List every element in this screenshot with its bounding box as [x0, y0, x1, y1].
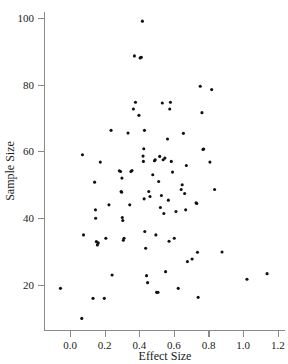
- data-point: [163, 157, 166, 160]
- data-point: [91, 297, 94, 300]
- data-point: [180, 188, 183, 191]
- x-tick-label: 1.0: [236, 339, 250, 351]
- data-point: [121, 219, 124, 222]
- data-point: [162, 212, 165, 215]
- data-point: [157, 180, 160, 183]
- data-point: [81, 153, 84, 156]
- data-point: [202, 148, 205, 151]
- data-point: [154, 233, 157, 236]
- data-point: [173, 237, 176, 240]
- y-tick-label: 60: [23, 145, 35, 157]
- data-point: [200, 111, 203, 114]
- data-point: [182, 132, 185, 135]
- plot-canvas: 20406080100 0.00.20.40.60.81.01.2 Effect…: [0, 0, 288, 364]
- data-point: [174, 210, 177, 213]
- data-point: [130, 169, 133, 172]
- data-point: [141, 20, 144, 23]
- data-point: [210, 88, 213, 91]
- data-point: [93, 181, 96, 184]
- y-axis-ticks: 20406080100: [18, 12, 45, 291]
- data-point: [128, 203, 131, 206]
- data-point: [184, 208, 187, 211]
- data-point: [181, 183, 184, 186]
- data-point: [164, 270, 167, 273]
- data-point: [208, 161, 211, 164]
- data-point: [134, 101, 137, 104]
- data-point: [147, 190, 150, 193]
- data-point: [156, 291, 159, 294]
- data-point: [119, 170, 122, 173]
- data-point: [104, 237, 107, 240]
- data-point: [196, 251, 199, 254]
- data-point: [137, 114, 140, 117]
- data-point: [159, 206, 162, 209]
- data-point: [170, 160, 173, 163]
- data-point: [154, 158, 157, 161]
- data-point: [161, 101, 164, 104]
- data-point: [107, 203, 110, 206]
- data-point: [168, 107, 171, 110]
- data-point: [143, 129, 146, 132]
- data-point: [122, 237, 125, 240]
- data-point: [146, 281, 149, 284]
- scatter-plot-figure: 20406080100 0.00.20.40.60.81.01.2 Effect…: [0, 0, 288, 364]
- data-point: [97, 241, 100, 244]
- y-axis-title: Sample Size: [3, 141, 17, 201]
- data-point: [140, 56, 143, 59]
- data-point: [82, 233, 85, 236]
- data-points-layer: [59, 20, 269, 320]
- data-point: [133, 54, 136, 57]
- x-tick-label: 0.0: [63, 339, 77, 351]
- data-point: [185, 164, 188, 167]
- data-point: [183, 192, 186, 195]
- data-point: [186, 260, 189, 263]
- data-point: [197, 296, 200, 299]
- x-tick-label: 0.8: [202, 339, 216, 351]
- x-tick-label: 1.2: [271, 339, 285, 351]
- data-point: [169, 101, 172, 104]
- data-point: [143, 197, 146, 200]
- data-point: [120, 177, 123, 180]
- data-point: [144, 247, 147, 250]
- data-point: [120, 191, 123, 194]
- data-point: [143, 230, 146, 233]
- data-point: [191, 257, 194, 260]
- data-point: [99, 161, 102, 164]
- y-tick-label: 80: [23, 79, 35, 91]
- data-point: [245, 278, 248, 281]
- data-point: [111, 273, 114, 276]
- data-point: [160, 194, 163, 197]
- data-point: [94, 217, 97, 220]
- data-point: [109, 129, 112, 132]
- data-point: [220, 250, 223, 253]
- data-point: [199, 85, 202, 88]
- data-point: [80, 317, 83, 320]
- y-tick-label: 40: [23, 212, 35, 224]
- data-point: [145, 274, 148, 277]
- data-point: [168, 240, 171, 243]
- data-point: [59, 287, 62, 290]
- data-point: [195, 202, 198, 205]
- x-axis-title: Effect Size: [139, 349, 192, 363]
- y-tick-label: 100: [18, 12, 35, 24]
- data-point: [167, 199, 170, 202]
- data-point: [151, 173, 154, 176]
- data-point: [266, 272, 269, 275]
- data-point: [132, 107, 135, 110]
- data-point: [126, 131, 129, 134]
- data-point: [103, 297, 106, 300]
- data-point: [171, 171, 174, 174]
- data-point: [142, 147, 145, 150]
- data-point: [142, 160, 145, 163]
- data-point: [177, 287, 180, 290]
- data-point: [148, 195, 151, 198]
- axes-group: [45, 12, 286, 331]
- data-point: [94, 208, 97, 211]
- data-point: [158, 155, 161, 158]
- data-point: [213, 188, 216, 191]
- x-axis-ticks: 0.00.20.40.60.81.01.2: [63, 331, 285, 352]
- data-point: [121, 216, 124, 219]
- x-tick-label: 0.2: [98, 339, 112, 351]
- data-point: [142, 155, 145, 158]
- y-tick-label: 20: [23, 279, 35, 291]
